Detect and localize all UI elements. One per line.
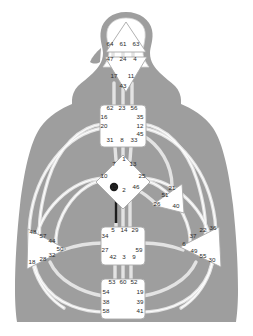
gate-number[interactable]: 27 bbox=[102, 246, 109, 253]
gate-number[interactable]: 38 bbox=[103, 298, 110, 305]
gate-number[interactable]: 53 bbox=[109, 278, 116, 285]
gate-number[interactable]: 3 bbox=[122, 253, 126, 260]
gate-number[interactable]: 58 bbox=[103, 307, 110, 314]
gate-number[interactable]: 17 bbox=[111, 72, 118, 79]
gate-number[interactable]: 61 bbox=[120, 40, 127, 47]
gate-number[interactable]: 23 bbox=[119, 104, 126, 111]
gate-number[interactable]: 56 bbox=[131, 104, 138, 111]
gate-number[interactable]: 50 bbox=[57, 245, 64, 252]
gate-number[interactable]: 18 bbox=[29, 258, 36, 265]
gate-number[interactable]: 21 bbox=[169, 184, 176, 191]
gate-number[interactable]: 49 bbox=[191, 247, 198, 254]
gate-number[interactable]: 2 bbox=[122, 186, 126, 193]
gate-number[interactable]: 9 bbox=[132, 253, 136, 260]
gate-number[interactable]: 1 bbox=[122, 155, 126, 162]
gate-number[interactable]: 60 bbox=[120, 278, 127, 285]
gate-number[interactable]: 5 bbox=[111, 226, 115, 233]
gate-number[interactable]: 28 bbox=[40, 255, 47, 262]
gate-number[interactable]: 24 bbox=[120, 55, 127, 62]
gate-number[interactable]: 10 bbox=[101, 172, 108, 179]
gate-number[interactable]: 14 bbox=[121, 226, 128, 233]
gate-number[interactable]: 57 bbox=[40, 232, 47, 239]
gate-number[interactable]: 33 bbox=[131, 136, 138, 143]
gate-number[interactable]: 16 bbox=[101, 113, 108, 120]
gate-number[interactable]: 64 bbox=[107, 40, 114, 47]
bodygraph-chart: 6461634724417114362235616352012453183317… bbox=[0, 0, 253, 336]
gate-number[interactable]: 54 bbox=[103, 288, 110, 295]
gate-number[interactable]: 45 bbox=[137, 130, 144, 137]
gate-number[interactable]: 13 bbox=[130, 160, 137, 167]
gate-number[interactable]: 7 bbox=[112, 160, 116, 167]
gate-number[interactable]: 55 bbox=[200, 252, 207, 259]
gate-number[interactable]: 30 bbox=[209, 256, 216, 263]
gate-number[interactable]: 29 bbox=[132, 226, 139, 233]
gate-number[interactable]: 31 bbox=[107, 136, 114, 143]
gate-number[interactable]: 6 bbox=[182, 240, 186, 247]
gate-number[interactable]: 44 bbox=[49, 237, 56, 244]
gate-number[interactable]: 48 bbox=[30, 228, 37, 235]
gate-number[interactable]: 34 bbox=[102, 232, 109, 239]
gate-number[interactable]: 43 bbox=[120, 82, 127, 89]
gate-number[interactable]: 59 bbox=[136, 246, 143, 253]
gate-number[interactable]: 37 bbox=[190, 232, 197, 239]
gate-number[interactable]: 35 bbox=[137, 113, 144, 120]
gate-number[interactable]: 62 bbox=[107, 104, 114, 111]
gate-number[interactable]: 32 bbox=[49, 251, 56, 258]
gate-number[interactable]: 52 bbox=[131, 278, 138, 285]
gate-number: 15 bbox=[111, 184, 117, 190]
gate-number[interactable]: 20 bbox=[101, 122, 108, 129]
gate-number[interactable]: 42 bbox=[110, 253, 117, 260]
gate-number[interactable]: 4 bbox=[133, 55, 137, 62]
gate-number[interactable]: 40 bbox=[173, 202, 180, 209]
gate-number[interactable]: 51 bbox=[162, 191, 169, 198]
gate-number[interactable]: 25 bbox=[139, 172, 146, 179]
gate-number[interactable]: 12 bbox=[137, 122, 144, 129]
gate-number[interactable]: 22 bbox=[200, 226, 207, 233]
gate-number[interactable]: 8 bbox=[120, 136, 124, 143]
gate-number[interactable]: 47 bbox=[107, 55, 114, 62]
gate-number[interactable]: 11 bbox=[128, 72, 135, 79]
gate-number[interactable]: 41 bbox=[137, 307, 144, 314]
gate-number[interactable]: 63 bbox=[133, 40, 140, 47]
gate-number[interactable]: 46 bbox=[133, 183, 140, 190]
gate-number[interactable]: 19 bbox=[137, 288, 144, 295]
gate-number[interactable]: 39 bbox=[137, 298, 144, 305]
gate-number[interactable]: 36 bbox=[210, 224, 217, 231]
gate-number[interactable]: 26 bbox=[154, 200, 161, 207]
